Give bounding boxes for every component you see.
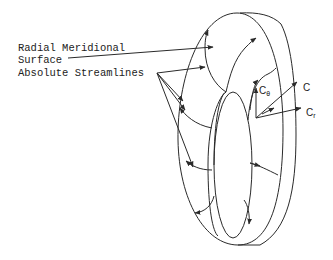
label-absolute-streamlines: Absolute Streamlines [18,68,144,79]
streamline-top-left [205,30,226,92]
label-radial-meridional: Radial Meridional [18,43,125,54]
label-c: C [303,83,310,93]
leader-streamlines-4 [157,73,193,167]
outer-ring-front-edge [178,13,283,245]
leader-streamlines-1 [157,67,205,73]
inner-hub-back-edge [208,92,226,236]
streamline-left-upper [180,108,212,128]
vector-c-r [256,108,301,118]
label-surface: Surface [18,55,62,66]
label-c-r: Cr [306,108,316,119]
leader-streamlines-3 [157,73,185,110]
annulus-streamline-diagram [0,0,333,260]
streamline-left-lower [195,196,214,213]
leader-streamlines-2 [157,73,183,101]
label-c-theta: Cθ [259,86,270,97]
streamline-top [226,38,256,92]
outer-ring-back-edge [238,13,296,245]
streamline-bottom [244,200,249,224]
streamline-right-mid [250,163,278,175]
inner-hub-front [214,92,252,238]
